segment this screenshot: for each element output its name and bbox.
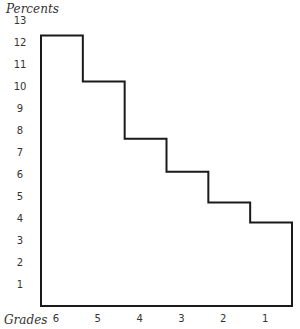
y-tick-label: 6 [17, 169, 23, 180]
y-tick-label: 11 [14, 59, 27, 70]
y-tick-label: 9 [17, 103, 23, 114]
y-tick-label: 8 [17, 125, 23, 136]
y-tick-label: 4 [17, 213, 23, 224]
histogram-chart: Percents 12345678910111213 Grades 654321 [0, 0, 300, 329]
y-tick-label: 5 [17, 191, 23, 202]
y-axis-ticks: 12345678910111213 [14, 15, 27, 290]
y-tick-label: 10 [14, 81, 27, 92]
x-tick-label: 2 [220, 313, 226, 324]
x-axis-ticks: 654321 [53, 313, 269, 324]
y-tick-label: 7 [17, 147, 23, 158]
x-tick-label: 3 [178, 313, 184, 324]
x-tick-label: 5 [95, 313, 101, 324]
y-tick-label: 1 [17, 279, 23, 290]
y-tick-label: 3 [17, 235, 23, 246]
y-tick-label: 12 [14, 37, 27, 48]
x-tick-label: 4 [136, 313, 142, 324]
x-tick-label: 6 [53, 313, 59, 324]
x-tick-label: 1 [262, 313, 268, 324]
y-tick-label: 13 [14, 15, 27, 26]
y-tick-label: 2 [17, 257, 23, 268]
x-axis-label: Grades [4, 313, 47, 327]
y-axis-label: Percents [5, 2, 59, 16]
histogram-outline [41, 35, 292, 306]
